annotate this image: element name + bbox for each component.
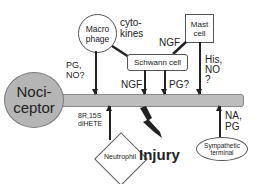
lightning-icon (138, 106, 164, 140)
macrophage-signal-label: PG, NO? (66, 60, 85, 80)
nociceptor-node: Noci- ceptor (4, 72, 64, 128)
neutrophil-to-axon-arrow (109, 106, 111, 140)
schwann-pg-label: PG? (169, 80, 189, 90)
neutrophil-signal-label: 8R,15S diHETE (78, 112, 102, 127)
macrophage-label: Macro phage (86, 24, 110, 44)
mast-to-axon-arrow (199, 42, 201, 94)
schwann-cell-node: Schwann cell (127, 54, 188, 71)
schwann-ngf-arrow (144, 70, 146, 94)
sympathetic-signal-label: NA, PG (225, 110, 242, 132)
nociceptor-label: Noci- ceptor (13, 84, 55, 116)
mast-ngf-label: NGF (159, 38, 180, 48)
cytokines-label: cyto- kines (120, 17, 143, 39)
sympathetic-terminal-node: Sympathetic terminal (196, 137, 248, 161)
schwann-ngf-label: NGF (121, 80, 142, 90)
mast-cell-node: Mast cell (185, 14, 214, 43)
mast-signal-label: His, NO ? (205, 55, 222, 85)
sympathetic-to-axon-arrow (219, 106, 221, 137)
mast-cell-label: Mast cell (191, 20, 208, 38)
schwann-pg-arrow (164, 70, 166, 94)
schwann-cell-label: Schwann cell (134, 58, 181, 67)
neutrophil-label: Neutrophil (95, 153, 145, 160)
macrophage-to-axon-arrow (95, 51, 97, 94)
sympathetic-terminal-label: Sympathetic terminal (204, 142, 240, 157)
injury-label: Injury (139, 146, 180, 163)
